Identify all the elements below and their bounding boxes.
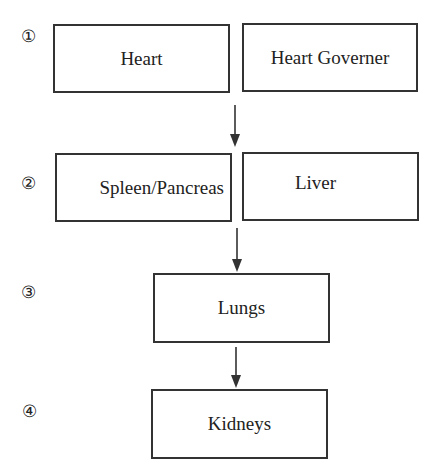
arrow-step2-to-step3 [232, 228, 242, 272]
arrow-step1-to-step2 [230, 105, 240, 147]
arrow-step3-to-step4 [231, 347, 241, 388]
arrows-layer [0, 0, 424, 467]
